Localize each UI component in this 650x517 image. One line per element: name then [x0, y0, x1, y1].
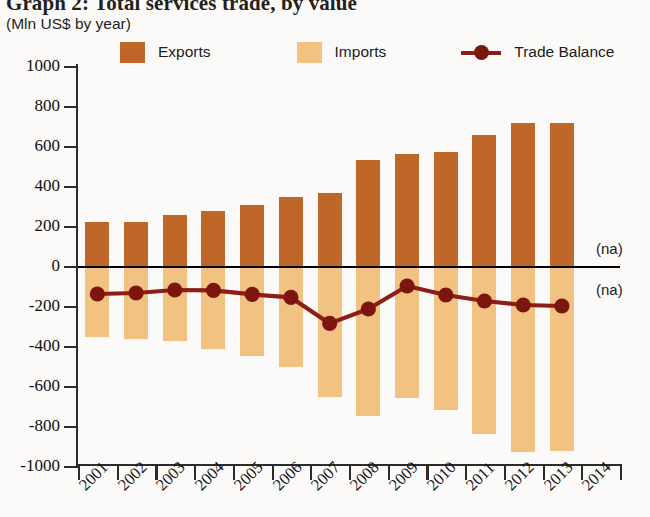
imports-swatch-icon — [297, 42, 322, 63]
chart-legend: Exports Imports Trade Balance — [120, 41, 615, 63]
y-tick — [64, 266, 77, 268]
chart-title: Graph 2: Total services trade, by value — [6, 0, 357, 16]
y-tick-label: -800 — [4, 416, 60, 436]
y-tick — [64, 346, 77, 348]
chart-subtitle: (Mln US$ by year) — [6, 15, 131, 33]
trade-balance-point — [167, 282, 182, 297]
y-tick-label: 0 — [4, 256, 60, 276]
chart-page: Graph 2: Total services trade, by value … — [0, 0, 650, 517]
legend-label-exports: Exports — [158, 43, 211, 61]
y-tick — [64, 146, 77, 148]
na-label-imports: (na) — [596, 281, 623, 298]
y-tick-label: -400 — [4, 336, 60, 356]
y-tick — [64, 106, 77, 108]
trade-balance-point — [554, 298, 569, 313]
legend-item-trade-balance: Trade Balance — [461, 42, 614, 63]
trade-balance-point — [245, 287, 260, 302]
trade-balance-point — [477, 293, 492, 308]
trade-balance-point — [128, 285, 143, 300]
y-tick-label: 1000 — [4, 56, 60, 76]
trade-balance-point — [516, 297, 531, 312]
trade-balance-point — [90, 286, 105, 301]
trade-balance-point — [322, 316, 337, 331]
trade-balance-line — [78, 66, 620, 466]
y-tick-label: 600 — [4, 136, 60, 156]
legend-item-imports: Imports — [297, 42, 387, 63]
y-tick — [64, 306, 77, 308]
trade-balance-point — [399, 278, 414, 293]
y-tick-label: 800 — [4, 96, 60, 116]
na-label-exports: (na) — [596, 240, 623, 257]
exports-swatch-icon — [120, 42, 145, 63]
trade-balance-point — [206, 283, 221, 298]
y-tick-label: -200 — [4, 296, 60, 316]
y-tick — [64, 66, 77, 68]
y-tick — [64, 226, 77, 228]
legend-label-trade-balance: Trade Balance — [514, 43, 614, 61]
y-tick — [64, 386, 77, 388]
trade-balance-point — [438, 287, 453, 302]
x-tick — [620, 466, 622, 480]
trade-balance-point — [283, 290, 298, 305]
y-tick-label: -1000 — [4, 456, 60, 476]
trade-balance-marker-icon — [461, 42, 501, 63]
y-tick-label: -600 — [4, 376, 60, 396]
y-tick — [64, 426, 77, 428]
y-tick-label: 200 — [4, 216, 60, 236]
legend-item-exports: Exports — [120, 42, 211, 63]
legend-label-imports: Imports — [335, 43, 387, 61]
trade-balance-point — [361, 301, 376, 316]
y-tick-label: 400 — [4, 176, 60, 196]
y-tick — [64, 186, 77, 188]
